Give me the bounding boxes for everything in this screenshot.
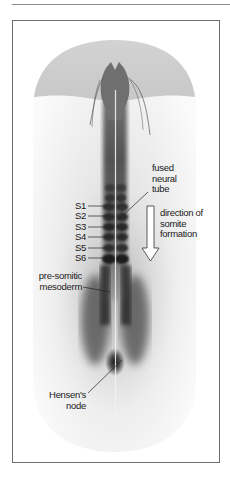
label-line: formation <box>160 229 203 240</box>
label-hensens-node: Hensen's node <box>40 390 86 411</box>
label-direction-of-somite-formation: direction of somite formation <box>160 208 203 240</box>
label-fused-neural-tube: fused neural tube <box>152 163 177 195</box>
label-line: node <box>40 401 86 412</box>
label-line: pre-somitic <box>30 271 82 282</box>
label-line: Hensen's <box>40 390 86 401</box>
label-line: direction of <box>160 208 203 219</box>
label-line: mesoderm <box>30 282 82 293</box>
label-line: tube <box>152 184 177 195</box>
label-s6: S6 <box>66 253 86 264</box>
label-line: fused <box>152 163 177 174</box>
label-pre-somitic-mesoderm: pre-somitic mesoderm <box>30 271 82 292</box>
label-s2: S2 <box>66 211 86 222</box>
label-s4: S4 <box>66 232 86 243</box>
